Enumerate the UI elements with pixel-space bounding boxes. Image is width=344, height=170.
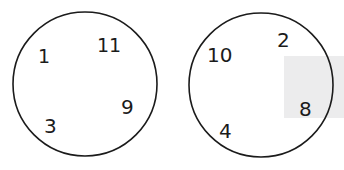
group-circle-right[interactable] — [189, 13, 333, 157]
number-11[interactable]: 11 — [97, 36, 121, 55]
group-circle-left[interactable] — [13, 12, 157, 156]
number-8[interactable]: 8 — [299, 99, 312, 119]
number-4[interactable]: 4 — [219, 121, 232, 141]
number-2[interactable]: 2 — [277, 30, 290, 50]
number-1[interactable]: 1 — [38, 47, 50, 66]
circles-drawing — [0, 0, 344, 170]
number-3[interactable]: 3 — [44, 116, 57, 136]
number-9[interactable]: 9 — [121, 97, 134, 117]
number-10[interactable]: 10 — [207, 45, 232, 65]
worksheet-canvas: 1119310284 — [0, 0, 344, 170]
